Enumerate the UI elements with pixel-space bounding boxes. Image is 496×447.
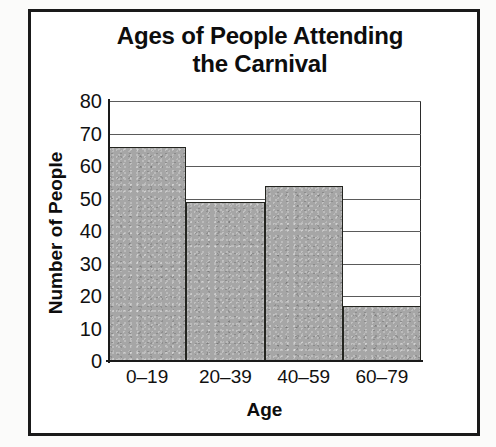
plot-area (108, 101, 421, 361)
gridline (108, 101, 421, 102)
y-tick-label: 30 (58, 254, 102, 274)
y-tick-label: 70 (58, 124, 102, 144)
bar (186, 202, 264, 361)
x-tick-label: 40–59 (265, 366, 343, 388)
chart-title-line-1: Ages of People Attending (117, 22, 403, 49)
x-axis-title: Age (108, 399, 421, 421)
bar (343, 306, 421, 361)
y-tick-label: 10 (58, 319, 102, 339)
y-tick-label: 80 (58, 91, 102, 111)
y-tick-label: 50 (58, 189, 102, 209)
chart-title-line-2: the Carnival (60, 50, 460, 78)
y-tick-label: 0 (58, 351, 102, 371)
x-tick-label: 60–79 (343, 366, 421, 388)
y-tick-label: 60 (58, 156, 102, 176)
x-tick-label: 0–19 (108, 366, 186, 388)
y-axis-tick-labels: 80706050403020100 (54, 0, 102, 447)
y-axis-line (108, 99, 110, 363)
figure-canvas: Ages of People Attending the Carnival Nu… (0, 0, 496, 447)
bar (265, 186, 343, 362)
x-tick-label: 20–39 (186, 366, 264, 388)
y-tick-label: 40 (58, 221, 102, 241)
y-tick-label: 20 (58, 286, 102, 306)
chart-title: Ages of People Attending the Carnival (60, 22, 460, 78)
x-axis-line (106, 360, 423, 362)
bar (108, 147, 186, 362)
gridline (108, 134, 421, 135)
